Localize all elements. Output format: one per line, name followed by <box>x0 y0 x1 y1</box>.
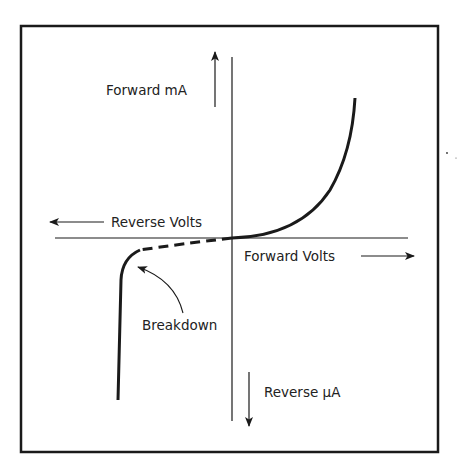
forward-volts-label: Forward Volts <box>244 248 335 264</box>
breakdown-curve <box>118 250 140 400</box>
forward-conduction-curve <box>232 98 355 238</box>
forward-ma-label: Forward mA <box>106 82 188 98</box>
reverse-ua-label: Reverse μA <box>264 384 341 400</box>
reverse-leakage-curve <box>140 238 232 250</box>
scan-speck <box>446 152 448 154</box>
diode-iv-diagram: Forward mA Reverse Volts Forward Volts B… <box>0 0 458 468</box>
breakdown-pointer-arrow-icon <box>138 267 183 313</box>
reverse-volts-label: Reverse Volts <box>111 214 202 230</box>
scan-speck <box>455 157 456 158</box>
breakdown-label: Breakdown <box>142 317 217 333</box>
